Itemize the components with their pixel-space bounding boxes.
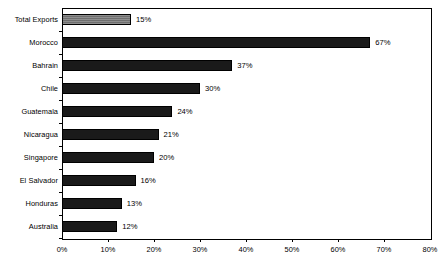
bar [62,175,136,186]
category-label: Morocco [0,38,58,47]
category-label: El Salvador [0,176,58,185]
category-label: Total Exports [0,15,58,24]
bar-value-label: 12% [122,221,137,232]
category-label: Honduras [0,199,58,208]
value-tick [154,239,155,242]
category-tick [59,31,62,32]
value-tick-label: 40% [229,245,263,254]
bar-value-label: 24% [177,106,192,117]
value-tick [292,239,293,242]
value-tick [384,239,385,242]
category-label: Guatemala [0,107,58,116]
bar [62,83,200,94]
bar-value-label: 21% [164,129,179,140]
category-tick [59,215,62,216]
bar [62,60,232,71]
value-tick [108,239,109,242]
value-tick-label: 0% [45,245,79,254]
bar [62,198,122,209]
value-tick-label: 30% [183,245,217,254]
bar [62,129,159,140]
category-tick [59,146,62,147]
value-tick-label: 70% [367,245,401,254]
plot-area: 15%67%37%30%24%21%20%16%13%12% [62,8,430,238]
bar-chart: Total ExportsMoroccoBahrainChileGuatemal… [0,0,447,272]
bar-value-label: 15% [136,14,151,25]
value-tick-label: 20% [137,245,171,254]
bar-value-label: 16% [141,175,156,186]
category-label: Australia [0,222,58,231]
category-label: Nicaragua [0,130,58,139]
value-tick [338,239,339,242]
value-tick [246,239,247,242]
category-tick [59,54,62,55]
value-tick-label: 60% [321,245,355,254]
category-label: Bahrain [0,61,58,70]
value-tick-label: 80% [413,245,447,254]
category-label: Chile [0,84,58,93]
category-tick [59,123,62,124]
bar-value-label: 20% [159,152,174,163]
value-tick-label: 50% [275,245,309,254]
bar-value-label: 37% [237,60,252,71]
value-tick [200,239,201,242]
bar-value-label: 13% [127,198,142,209]
category-label: Singapore [0,153,58,162]
bar-value-label: 30% [205,83,220,94]
bar [62,152,154,163]
bar [62,221,117,232]
category-tick [59,77,62,78]
bar [62,106,172,117]
category-tick [59,169,62,170]
category-tick [59,192,62,193]
category-axis: Total ExportsMoroccoBahrainChileGuatemal… [0,8,58,238]
value-axis-line [62,8,63,239]
bar [62,14,131,25]
bar-value-label: 67% [375,37,390,48]
category-tick [59,100,62,101]
value-tick-label: 10% [91,245,125,254]
category-tick [59,238,62,239]
bar [62,37,370,48]
